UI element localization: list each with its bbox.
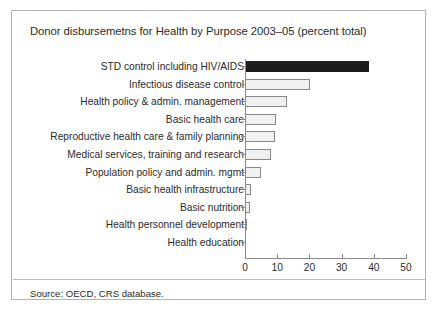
category-label: Medical services, training and research: [14, 148, 244, 162]
category-label: Health policy & admin. management: [14, 95, 244, 109]
x-axis-tick-label: 0: [230, 262, 260, 273]
category-label: Basic nutrition: [14, 201, 244, 215]
plot-area: STD control including HIV/AIDSInfectious…: [12, 59, 425, 267]
bar: [245, 167, 261, 178]
x-axis-tick-label: 30: [327, 262, 357, 273]
chart-row: Medical services, training and research: [12, 148, 425, 165]
x-axis-line: [245, 258, 407, 259]
chart-row: Basic health infrastructure: [12, 183, 425, 200]
category-label: STD control including HIV/AIDS: [14, 60, 244, 74]
x-axis-tick-label: 20: [294, 262, 324, 273]
bar: [245, 61, 369, 72]
chart-row: Health education: [12, 236, 425, 253]
category-label: Health personnel development: [14, 218, 244, 232]
x-axis-tick-label: 10: [262, 262, 292, 273]
bar: [245, 114, 276, 125]
category-label: Basic health infrastructure: [14, 183, 244, 197]
source-note: Source: OECD, CRS database.: [30, 288, 164, 299]
x-axis-tick: [309, 254, 310, 259]
bar: [245, 131, 275, 142]
x-axis-tick-label: 50: [391, 262, 421, 273]
bar: [245, 79, 310, 90]
category-label: Basic health care: [14, 113, 244, 127]
chart-title: Donor disbursemetns for Health by Purpos…: [30, 25, 366, 37]
chart-row: Infectious disease control: [12, 78, 425, 95]
category-label: Health education: [14, 236, 244, 250]
source-divider: [13, 279, 426, 280]
chart-row: Health policy & admin. management: [12, 95, 425, 112]
category-label: Population policy and admin. mgmt: [14, 166, 244, 180]
category-label: Reproductive health care & family planni…: [14, 130, 244, 144]
x-axis-tick: [277, 254, 278, 259]
y-axis-line: [245, 59, 246, 259]
chart-row: STD control including HIV/AIDS: [12, 60, 425, 77]
chart-row: Basic nutrition: [12, 201, 425, 218]
x-axis-tick-label: 40: [359, 262, 389, 273]
x-axis-tick: [245, 254, 246, 259]
chart-figure: Donor disbursemetns for Health by Purpos…: [11, 10, 426, 300]
chart-row: Basic health care: [12, 113, 425, 130]
category-label: Infectious disease control: [14, 78, 244, 92]
x-axis-tick: [374, 254, 375, 259]
bar: [245, 96, 287, 107]
x-axis-tick: [342, 254, 343, 259]
chart-row: Reproductive health care & family planni…: [12, 130, 425, 147]
chart-row: Health personnel development: [12, 218, 425, 235]
x-axis-tick: [406, 254, 407, 259]
chart-row: Population policy and admin. mgmt: [12, 166, 425, 183]
bar: [245, 149, 271, 160]
